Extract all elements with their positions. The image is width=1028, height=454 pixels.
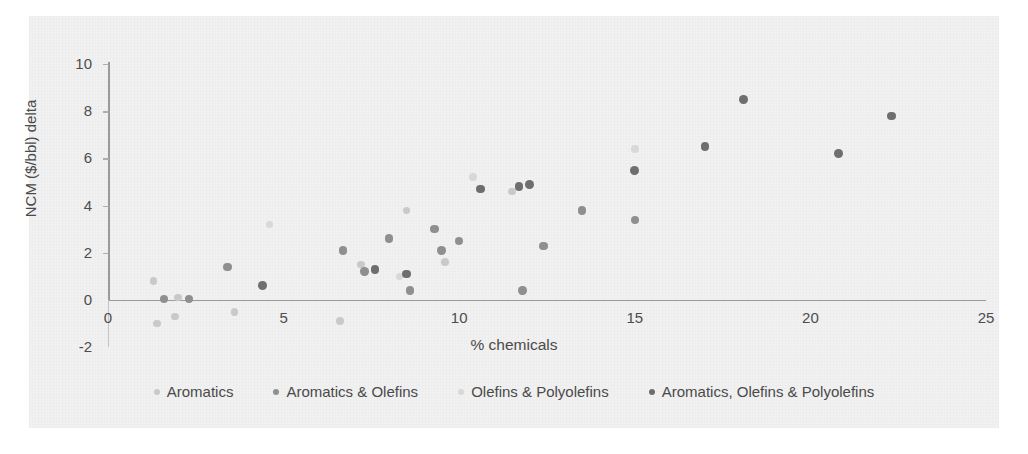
data-point	[406, 286, 414, 294]
data-point	[223, 263, 231, 271]
data-point	[469, 173, 477, 181]
data-point	[339, 246, 347, 254]
data-point	[430, 225, 438, 233]
data-point	[701, 142, 710, 151]
data-point	[403, 207, 411, 215]
y-tick-mark	[103, 158, 109, 159]
data-point	[231, 308, 239, 316]
legend-label: Aromatics & Olefins	[286, 383, 418, 400]
data-point	[336, 317, 344, 325]
y-tick-mark	[103, 64, 109, 65]
data-point	[518, 286, 526, 294]
data-point	[631, 145, 639, 153]
y-tick-mark	[103, 206, 109, 207]
y-tick-label: 8	[58, 103, 92, 118]
data-point	[153, 320, 161, 328]
data-point	[539, 242, 547, 250]
data-point	[385, 234, 393, 242]
legend-item-1[interactable]: Aromatics	[154, 383, 234, 400]
legend-label: Aromatics	[167, 383, 234, 400]
data-point	[160, 295, 168, 303]
y-tick-label: 4	[58, 198, 92, 213]
legend-label: Aromatics, Olefins & Polyolefins	[662, 383, 875, 400]
data-point	[631, 216, 639, 224]
legend-marker-icon	[649, 389, 655, 395]
legend-item-2[interactable]: Aromatics & Olefins	[273, 383, 418, 400]
x-tick-label: 25	[966, 310, 1006, 325]
data-point	[834, 149, 843, 158]
data-point	[455, 237, 463, 245]
data-point	[476, 185, 485, 194]
data-point	[360, 267, 368, 275]
y-axis-line	[108, 62, 110, 300]
legend-item-3[interactable]: Olefins & Polyolefins	[458, 383, 609, 400]
x-tick-label: 10	[439, 310, 479, 325]
y-tick-label: 10	[58, 56, 92, 71]
data-point	[185, 295, 193, 303]
data-point	[525, 180, 534, 189]
data-point	[150, 277, 158, 285]
data-point	[887, 112, 896, 121]
data-point	[630, 166, 639, 175]
x-axis-title: % chemicals	[0, 336, 1028, 354]
chart-page: -20246810 0510152025 NCM ($/bbl) delta %…	[0, 0, 1028, 454]
data-point	[437, 246, 445, 254]
y-tick-label: 0	[58, 292, 92, 307]
legend-marker-icon	[273, 389, 279, 395]
data-point	[171, 313, 179, 321]
x-axis-line	[108, 300, 986, 301]
x-tick-label: 15	[615, 310, 655, 325]
y-tick-mark	[103, 253, 109, 254]
legend-label: Olefins & Polyolefins	[471, 383, 609, 400]
data-point	[739, 95, 748, 104]
data-point	[578, 206, 586, 214]
legend-marker-icon	[458, 389, 464, 395]
data-point	[402, 270, 411, 279]
legend-item-4[interactable]: Aromatics, Olefins & Polyolefins	[649, 383, 875, 400]
y-tick-mark	[103, 111, 109, 112]
y-tick-label: 2	[58, 245, 92, 260]
legend-marker-icon	[154, 389, 160, 395]
data-point	[371, 265, 380, 274]
x-tick-label: 5	[264, 310, 304, 325]
x-tick-label: 0	[88, 310, 128, 325]
chart-legend: AromaticsAromatics & OlefinsOlefins & Po…	[0, 383, 1028, 400]
y-tick-label: 6	[58, 150, 92, 165]
data-point	[441, 258, 449, 266]
data-point	[258, 281, 267, 290]
data-point	[266, 221, 274, 229]
x-tick-label: 20	[790, 310, 830, 325]
y-axis-title: NCM ($/bbl) delta	[22, 69, 39, 249]
data-point	[515, 182, 524, 191]
